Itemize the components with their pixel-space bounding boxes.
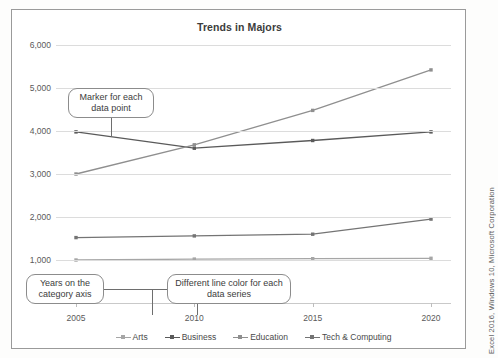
y-axis-tick-label: 2,000 xyxy=(30,212,51,222)
data-point-marker[interactable] xyxy=(429,68,432,71)
chart-title: Trends in Majors xyxy=(12,21,467,33)
y-axis-tick-label: 1,000 xyxy=(30,255,51,265)
data-point-marker[interactable] xyxy=(193,143,196,146)
legend-label: Arts xyxy=(133,332,148,342)
callout-different-line-color[interactable]: Different line color for each data serie… xyxy=(167,274,291,304)
series-line-tech-computing[interactable] xyxy=(76,219,431,238)
gridline xyxy=(56,131,451,132)
gridline xyxy=(56,217,451,218)
legend-key-icon xyxy=(305,333,320,342)
legend-key-icon xyxy=(116,333,131,342)
callout-colors-tail-down xyxy=(197,304,198,315)
legend-label: Tech & Computing xyxy=(322,332,391,342)
plot-area[interactable]: 1,0002,0003,0004,0005,0006,0002005201020… xyxy=(56,45,451,303)
callout-years-tail xyxy=(103,289,153,290)
legend-item-arts[interactable]: Arts xyxy=(116,332,148,342)
data-point-marker[interactable] xyxy=(193,147,196,150)
gridline xyxy=(56,45,451,46)
y-axis-tick-label: 3,000 xyxy=(30,169,51,179)
legend-key-icon xyxy=(233,333,248,342)
y-axis-tick-label: 5,000 xyxy=(30,83,51,93)
callout-colors-tail xyxy=(151,289,168,290)
gridline xyxy=(56,260,451,261)
legend-label: Business xyxy=(182,332,217,342)
y-axis-tick-label: 6,000 xyxy=(30,40,51,50)
data-point-marker[interactable] xyxy=(311,233,314,236)
series-line-education[interactable] xyxy=(76,70,431,174)
chart-legend[interactable]: ArtsBusinessEducationTech & Computing xyxy=(56,332,451,342)
legend-item-education[interactable]: Education xyxy=(233,332,288,342)
legend-item-tech-computing[interactable]: Tech & Computing xyxy=(305,332,391,342)
credit-text: Excel 2016, Windows 10, Microsoft Corpor… xyxy=(487,187,496,354)
callout-marker-tail xyxy=(111,118,112,137)
y-axis-tick-label: 4,000 xyxy=(30,126,51,136)
callout-years-tail-down xyxy=(152,289,153,315)
chart-frame[interactable]: Trends in Majors 1,0002,0003,0004,0005,0… xyxy=(11,9,466,349)
x-axis-tick-mark xyxy=(431,303,432,307)
x-axis-tick-label: 2005 xyxy=(67,313,86,323)
series-line-business[interactable] xyxy=(76,132,431,148)
callout-years-on-the-category-axis[interactable]: Years on the category axis xyxy=(26,274,104,304)
data-point-marker[interactable] xyxy=(74,236,77,239)
x-axis-tick-mark xyxy=(313,303,314,307)
data-point-marker[interactable] xyxy=(311,109,314,112)
gridline xyxy=(56,174,451,175)
legend-label: Education xyxy=(250,332,288,342)
x-axis-tick-label: 2010 xyxy=(185,313,204,323)
legend-item-business[interactable]: Business xyxy=(165,332,217,342)
x-axis-tick-label: 2020 xyxy=(422,313,441,323)
x-axis-tick-label: 2015 xyxy=(303,313,322,323)
callout-marker-for-each-data-point[interactable]: Marker for each data point xyxy=(68,88,154,118)
data-point-marker[interactable] xyxy=(193,234,196,237)
figure-container: Trends in Majors 1,0002,0003,0004,0005,0… xyxy=(0,0,498,358)
data-point-marker[interactable] xyxy=(311,139,314,142)
legend-key-icon xyxy=(165,333,180,342)
